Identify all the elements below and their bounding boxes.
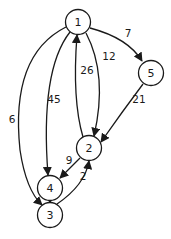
node-4-label: 4 (47, 182, 54, 195)
node-4: 4 (38, 176, 63, 201)
edge-1-2 (86, 33, 99, 136)
edge-label-1-2: 12 (102, 50, 115, 62)
edge-label-1-5: 7 (125, 27, 132, 39)
edge-label-2-1: 26 (80, 64, 94, 76)
graph-canvas: 7 12 26 45 6 21 9 8 2 1 5 2 4 3 (0, 0, 171, 239)
node-1-label: 1 (75, 16, 82, 29)
edge-label-1-3: 6 (9, 113, 16, 125)
edge-1-5 (90, 28, 142, 61)
node-2: 2 (77, 136, 102, 161)
node-2-label: 2 (86, 142, 93, 155)
node-5: 5 (139, 61, 164, 86)
edge-label-2-4: 9 (66, 154, 73, 166)
node-5-label: 5 (148, 67, 155, 80)
node-3: 3 (38, 203, 63, 228)
edge-label-5-2: 21 (132, 93, 145, 105)
edge-label-3-2: 2 (80, 170, 87, 182)
node-1: 1 (66, 10, 91, 35)
node-3-label: 3 (47, 209, 54, 222)
edge-2-1 (75, 35, 83, 137)
edge-label-1-4: 45 (47, 93, 60, 105)
